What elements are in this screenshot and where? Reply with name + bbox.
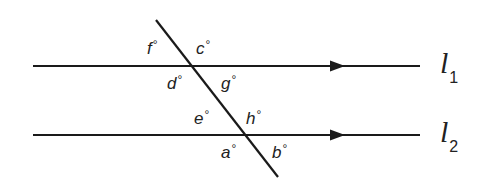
angle-f-label: f° [147, 40, 158, 57]
angle-h-label: h° [246, 110, 261, 127]
arrow-icon-l1 [330, 61, 345, 72]
diagram-svg [0, 0, 482, 191]
angle-b-label: b° [272, 144, 287, 161]
angle-a-label: a° [221, 144, 236, 161]
angle-d-label: d° [167, 75, 182, 92]
angle-c-label: c° [196, 40, 210, 57]
diagram-canvas: f° c° d° g° e° h° a° b° l1 l2 [0, 0, 482, 191]
transversal-line [156, 20, 278, 177]
angle-e-label: e° [194, 110, 209, 127]
arrow-icon-l2 [330, 130, 345, 141]
line-l1-label: l1 [440, 48, 458, 78]
angle-g-label: g° [221, 75, 236, 92]
line-l2-label: l2 [440, 117, 458, 147]
